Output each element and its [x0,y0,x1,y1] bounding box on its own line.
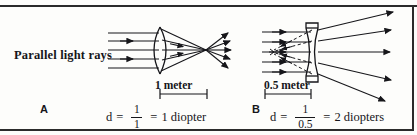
panel-a-letter: A [40,103,48,115]
virtual-focus-point [269,49,274,55]
equation-equals-second: = [150,110,157,125]
panel-b-letter: B [252,103,260,115]
equation-equals-second: = [323,110,330,125]
parallel-light-rays-label: Parallel light rays [14,48,112,63]
equation-result: 2 diopters [334,110,384,125]
lens-diopter-figure: Parallel light rays 1 meter 0.5 meter A … [0,0,417,135]
equation-variable: d [106,110,112,125]
equation-equals-first: = [280,110,287,125]
equation-numerator: 1 [134,104,140,117]
equation-fraction: 1 1 [131,104,142,130]
panel-b-measurement-label: 0.5 meter [264,79,310,91]
panel-a-converging-rays [161,29,206,71]
panel-b-diverging-rays [318,12,393,101]
equation-result: 1 diopter [161,110,206,125]
equation-fraction: 1 0.5 [295,104,315,130]
panel-a-postfocal-rays [206,33,231,68]
equation-denominator: 1 [134,118,140,131]
panel-b-equation: d = 1 0.5 = 2 diopters [270,104,384,130]
equation-equals-first: = [116,110,123,125]
panel-a-equation: d = 1 1 = 1 diopter [106,104,206,130]
equation-variable: d [270,110,276,125]
equation-denominator: 0.5 [298,118,312,131]
panel-a-measurement-label: 1 meter [155,79,192,91]
panel-a-incoming-rays [108,33,159,68]
equation-numerator: 1 [302,104,308,117]
panel-b-incoming-arrowheads [272,32,286,72]
